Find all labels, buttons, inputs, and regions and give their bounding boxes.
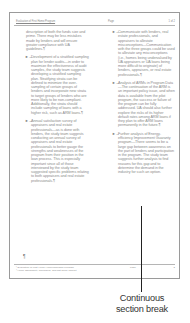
- bullet-item: ►→ Annual satisfaction survey of apprais…: [26, 119, 89, 183]
- bullet-item: ►→ Analysis of ARMs in Program Data—The …: [113, 81, 175, 128]
- header-center: Page: [108, 20, 114, 23]
- page-footer: ¹ Evaluation of First Home Homeownership…: [14, 264, 175, 265]
- bullet-text: Further analysis of Energy-efficiency Im…: [118, 132, 174, 174]
- caption-line-2: section break: [104, 304, 180, 315]
- bullet-arrow-icon: ►→: [25, 119, 32, 123]
- bullet-arrow-icon: ►→: [112, 81, 119, 85]
- document-page: Evaluation of First Home Program Page 1 …: [9, 12, 180, 279]
- bullet-arrow-icon: ►→: [25, 55, 32, 59]
- callout-leader-line: [141, 206, 142, 292]
- bullet-text: Annual satisfaction survey of appraisers…: [31, 119, 89, 183]
- callout-caption: Continuous section break: [104, 293, 180, 315]
- header-title: Evaluation of First Home Program: [16, 20, 55, 23]
- footer-page-number: 2: [174, 266, 175, 269]
- page-header: Evaluation of First Home Program Page 1 …: [14, 21, 175, 26]
- header-right: 1 of 2: [169, 20, 176, 23]
- bullet-text: Communicate with lenders, real estate pr…: [118, 30, 175, 77]
- right-column: ►→ Communicate with lenders, real estate…: [113, 30, 175, 179]
- footer-page-label: Page: [130, 266, 136, 269]
- bullet-item: ►→ Further analysis of Energy-efficiency…: [113, 132, 175, 175]
- footnote: ² Home affordability, appraisers, and fi…: [16, 269, 76, 272]
- left-column: description of both the funds size and p…: [26, 30, 89, 187]
- bullet-arrow-icon: ►→: [112, 30, 119, 34]
- bullet-item: ►→ Communicate with lenders, real estate…: [113, 30, 175, 77]
- pilcrow-mark: ¶: [23, 254, 25, 259]
- bullet-text: Development of a stratified sampling pla…: [31, 55, 89, 114]
- caption-line-1: Continuous: [104, 293, 180, 304]
- bullet-text: Analysis of ARMs in Program Data—The con…: [118, 81, 175, 128]
- paragraph: description of both the funds size and p…: [26, 30, 89, 51]
- bullet-arrow-icon: ►→: [112, 132, 119, 136]
- bullet-item: ►→ Development of a stratified sampling …: [26, 55, 89, 115]
